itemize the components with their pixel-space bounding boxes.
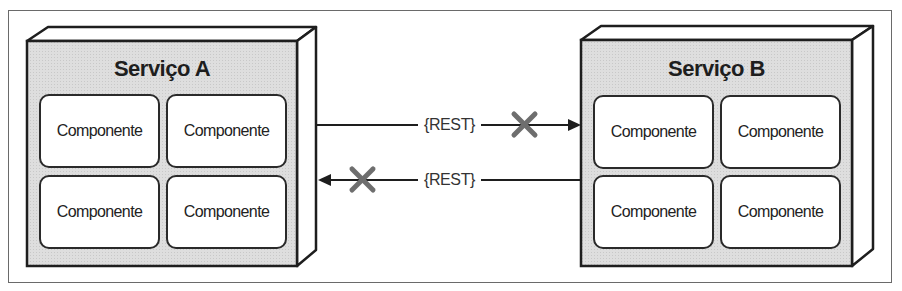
- rest-label-b-to-a: {REST}: [418, 171, 481, 189]
- service-b-component-2: Componente: [720, 95, 841, 169]
- rest-label-a-to-b: {REST}: [418, 116, 481, 134]
- service-b-component-3: Componente: [593, 175, 714, 249]
- service-b-component-1: Componente: [593, 95, 714, 169]
- service-a-component-1: Componente: [39, 94, 160, 168]
- service-b-title: Serviço B: [581, 56, 852, 82]
- arrowhead-left-icon: [318, 174, 331, 186]
- service-b-component-4: Componente: [720, 175, 841, 249]
- service-a-title: Serviço A: [27, 56, 297, 82]
- service-a-component-2: Componente: [166, 94, 287, 168]
- service-a-component-3: Componente: [39, 175, 160, 249]
- service-a-component-4: Componente: [166, 175, 287, 249]
- arrowhead-right-icon: [568, 119, 581, 131]
